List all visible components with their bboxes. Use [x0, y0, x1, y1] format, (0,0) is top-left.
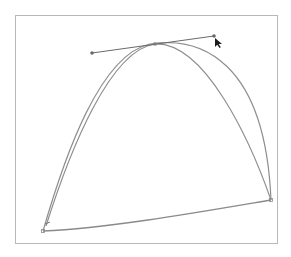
inner-arc-curve[interactable]	[46, 44, 271, 226]
apex-anchor[interactable]	[154, 43, 157, 46]
arrow-pointer-icon	[215, 38, 222, 48]
base-curve[interactable]	[43, 200, 271, 231]
outer-arc-curve[interactable]	[43, 43, 271, 231]
left-handle-point[interactable]	[90, 51, 94, 55]
tangent-handle-line[interactable]	[92, 36, 214, 53]
right-handle-point[interactable]	[212, 34, 216, 38]
bezier-diagram	[0, 0, 291, 257]
